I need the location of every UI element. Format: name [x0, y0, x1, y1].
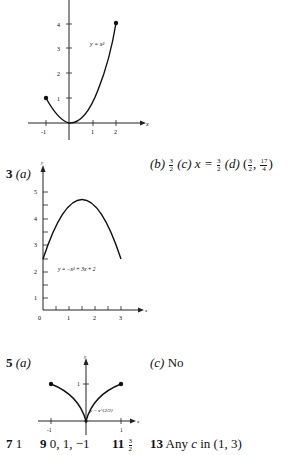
graph-downward-parabola-lower: x 0 1 2 3 y = −x² + 3x + 2	[30, 160, 150, 340]
problem-3-label: 3 (a)	[6, 166, 31, 182]
problem-11: 11 32	[112, 436, 133, 453]
svg-text:1: 1	[120, 427, 123, 433]
svg-text:x: x	[144, 308, 148, 313]
svg-text:2: 2	[114, 129, 117, 135]
problem-5-answer-c: (c) No	[150, 355, 184, 371]
svg-text:0: 0	[38, 315, 41, 321]
svg-text:1: 1	[77, 381, 80, 387]
svg-text:-1: -1	[41, 129, 46, 135]
svg-text:1: 1	[67, 315, 70, 321]
x-axis-label: x	[145, 121, 149, 127]
equation-label: y = x²	[89, 41, 104, 47]
equation-label: y = −x² + 3x + 2	[57, 266, 96, 272]
svg-text:-1: -1	[47, 427, 52, 433]
equation-label: y = x^{2/3}	[89, 408, 113, 413]
svg-text:2: 2	[57, 71, 60, 77]
svg-text:x: x	[136, 419, 140, 424]
problem-7: 7 1	[6, 436, 22, 452]
graph-cusp: y x -1 1 1 y = x^{2/3}	[35, 355, 145, 440]
problem-3-answers: (b) 32 (c) x = 32 (d) (32, 174)	[150, 156, 273, 173]
svg-text:y: y	[83, 355, 87, 359]
svg-text:1: 1	[57, 96, 60, 102]
svg-text:1: 1	[91, 129, 94, 135]
svg-text:3: 3	[57, 46, 60, 52]
svg-text:4: 4	[57, 22, 60, 28]
svg-text:2: 2	[93, 315, 96, 321]
problem-5-label: 5 (a)	[6, 355, 31, 371]
problem-9: 9 0, 1, −1	[40, 436, 90, 452]
problem-13: 13 Any c in (1, 3)	[150, 436, 242, 452]
svg-text:3: 3	[119, 315, 122, 321]
graph-parabola: x 1 2 3 4 -1 1 2 y = x²	[0, 0, 150, 140]
